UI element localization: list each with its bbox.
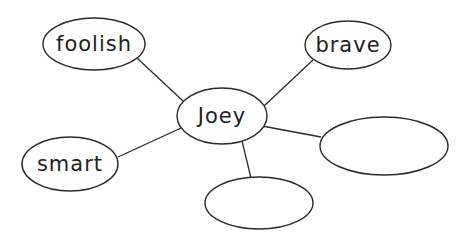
node-blank-bottom-bubble xyxy=(205,177,313,229)
node-brave-label: brave xyxy=(315,33,380,57)
node-foolish: foolish xyxy=(43,18,145,70)
edge-joey-blank-bottom xyxy=(242,141,251,178)
node-brave: brave xyxy=(305,21,391,69)
word-web-diagram: foolish brave smart Joey xyxy=(0,0,468,240)
edge-brave-joey xyxy=(264,60,313,106)
node-smart: smart xyxy=(22,137,118,191)
node-center-joey: Joey xyxy=(177,88,267,144)
node-blank-right-bubble xyxy=(320,117,448,175)
node-blank-bottom xyxy=(205,177,313,229)
edge-smart-joey xyxy=(118,128,181,157)
center-label: Joey xyxy=(196,104,246,128)
node-foolish-label: foolish xyxy=(56,32,132,56)
node-blank-right xyxy=(320,117,448,175)
edge-foolish-joey xyxy=(137,58,183,101)
node-smart-label: smart xyxy=(37,152,103,176)
edge-joey-blank-right xyxy=(262,126,321,137)
